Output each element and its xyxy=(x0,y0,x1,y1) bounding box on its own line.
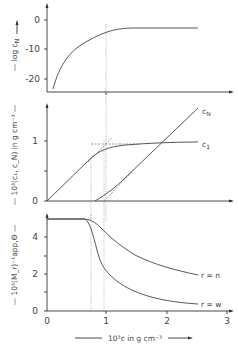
bot-ylabel: — 10³(M_r)⁻¹app,Θ — xyxy=(10,224,19,305)
top-tick-10: -10 xyxy=(25,44,40,54)
mid-tick-0: 0 xyxy=(32,196,38,206)
x-axis-label: 10³c in g cm⁻³ xyxy=(108,334,162,343)
cN-label: cN xyxy=(202,107,211,117)
c1-curve xyxy=(47,142,198,201)
figure: 0 -10 -20 — log cN 1 0 cN c1 — 10³(c₁, c… xyxy=(0,0,238,348)
top-ylabel: — log cN xyxy=(10,39,20,71)
r-n-curve xyxy=(47,219,198,275)
log-cN-curve xyxy=(53,28,198,89)
r-w-label: r = w xyxy=(201,300,221,309)
top-panel: 0 -10 -20 — log cN xyxy=(10,3,234,95)
bot-tick-4: 4 xyxy=(32,232,38,242)
mid-tick-1: 1 xyxy=(32,136,38,146)
x-tick-3: 3 xyxy=(224,316,230,326)
middle-panel: 1 0 cN c1 — 10³(c₁, c_N) in g cm⁻³ — xyxy=(10,92,234,222)
mid-ylabel: — 10³(c₁, c_N) in g cm⁻³ — xyxy=(10,104,19,205)
top-tick-0: 0 xyxy=(34,15,40,25)
top-tick-20: -20 xyxy=(25,74,40,84)
x-tick-1: 1 xyxy=(103,316,109,326)
x-tick-2: 2 xyxy=(164,316,170,326)
bot-tick-2: 2 xyxy=(32,269,38,279)
r-n-label: r = n xyxy=(201,271,220,280)
bot-tick-0: 0 xyxy=(32,306,38,316)
cN-curve xyxy=(95,108,198,201)
bottom-panel: 4 2 0 0 1 2 3 r = n r = w — 10³(M_r)⁻¹ap… xyxy=(10,213,234,343)
c1-label: c1 xyxy=(202,140,210,150)
r-w-curve xyxy=(47,219,198,304)
x-tick-0: 0 xyxy=(44,316,50,326)
